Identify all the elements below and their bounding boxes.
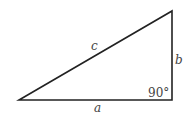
label-a: a — [94, 101, 101, 114]
right-triangle-diagram: c b a 90° — [0, 0, 188, 114]
label-c: c — [91, 39, 98, 53]
label-right-angle: 90° — [148, 86, 169, 100]
label-b: b — [175, 53, 183, 67]
